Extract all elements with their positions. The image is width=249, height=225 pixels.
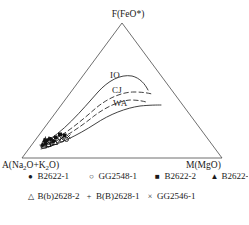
legend-label: B2622-3 <box>222 172 249 181</box>
curve-label-io: IO <box>110 71 120 80</box>
apex-label-feo: F(FeO*) <box>100 10 156 20</box>
plus-icon: + <box>85 193 94 201</box>
legend: ● B2622-1 ○ GG2548-1 ■ B2622-2 ▲ B2622-3… <box>0 172 248 212</box>
filled-circle-icon: ● <box>26 173 35 181</box>
ternary-plot-svg <box>0 0 248 170</box>
legend-label: B2622-2 <box>165 172 197 181</box>
vertex-label-alkali-part1: A(Na <box>2 160 23 170</box>
legend-label: GG2546-1 <box>157 192 196 201</box>
legend-item-bb2628-2: △ B(b)2628-2 <box>26 192 80 201</box>
vertex-label-alkali: A(Na2O+K2O) <box>2 161 59 171</box>
cross-icon: × <box>146 193 155 201</box>
legend-row: △ B(b)2628-2 + B(B)2628-1 × GG2546-1 <box>0 192 248 212</box>
vertex-label-alkali-part2: O+K <box>27 160 46 170</box>
vertex-label-mgo: M(MgO) <box>186 161 221 171</box>
vertex-label-alkali-part3: O) <box>49 160 59 170</box>
curve-label-cj: CJ <box>112 86 122 95</box>
legend-row: ● B2622-1 ○ GG2548-1 ■ B2622-2 ▲ B2622-3 <box>0 172 248 192</box>
legend-item-gg2548-1: ○ GG2548-1 <box>87 172 137 181</box>
legend-item-gg2546-1: × GG2546-1 <box>146 192 196 201</box>
data-point-gg2546-1 <box>67 135 71 139</box>
legend-item-b2622-1: ● B2622-1 <box>26 172 69 181</box>
legend-item-b2622-2: ■ B2622-2 <box>153 172 196 181</box>
ternary-plot-area: IO CJ WA <box>0 0 248 170</box>
open-triangle-icon: △ <box>26 193 35 201</box>
curve-label-wa: WA <box>113 99 127 108</box>
data-point-b2622-2 <box>54 136 58 140</box>
filled-square-icon: ■ <box>153 173 162 181</box>
data-point-b2622-2 <box>58 133 62 137</box>
legend-item-b2622-3: ▲ B2622-3 <box>210 172 248 181</box>
legend-label: B(B)2628-1 <box>96 192 140 201</box>
vertex-label-alkali-sub1: 2 <box>23 164 26 171</box>
legend-item-bb2628-1: + B(B)2628-1 <box>85 192 140 201</box>
boundary-curve-cj-lower <box>41 100 146 147</box>
ternary-diagram-figure: IO CJ WA F(FeO*) A(Na2O+K2O) M(MgO) ● B2… <box>0 0 248 225</box>
legend-label: B(b)2628-2 <box>38 192 80 201</box>
filled-triangle-icon: ▲ <box>210 173 219 181</box>
open-circle-icon: ○ <box>87 173 96 181</box>
legend-label: B2622-1 <box>38 172 70 181</box>
vertex-label-alkali-sub2: 2 <box>46 164 49 171</box>
legend-label: GG2548-1 <box>99 172 138 181</box>
